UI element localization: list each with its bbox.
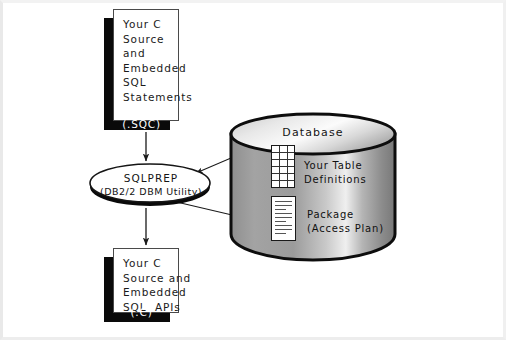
package-caption: Package (Access Plan) bbox=[307, 208, 384, 235]
sqlprep-ellipse-shape bbox=[88, 162, 214, 208]
table-grid-icon bbox=[271, 145, 295, 188]
diagram-page: Database Your Table Definitions bbox=[0, 0, 506, 340]
diagram-canvas: Database Your Table Definitions bbox=[0, 0, 506, 340]
output-box-extension: (.C) bbox=[104, 306, 179, 318]
output-box-text: Your C Source and Embedded SQL APIs bbox=[114, 249, 178, 314]
source-box-text: Your C Source and Embedded SQL Statement… bbox=[114, 10, 178, 104]
source-box-extension: (.SQC) bbox=[104, 118, 179, 130]
tables-caption: Your Table Definitions bbox=[304, 159, 366, 186]
database-cylinder: Database Your Table Definitions bbox=[229, 112, 397, 260]
output-box: Your C Source and Embedded SQL APIs bbox=[113, 248, 179, 313]
document-icon bbox=[271, 196, 296, 241]
source-box: Your C Source and Embedded SQL Statement… bbox=[113, 9, 179, 121]
sqlprep-process: SQLPREP (DB2/2 DBM Utility) bbox=[88, 162, 214, 208]
database-title: Database bbox=[229, 126, 397, 139]
